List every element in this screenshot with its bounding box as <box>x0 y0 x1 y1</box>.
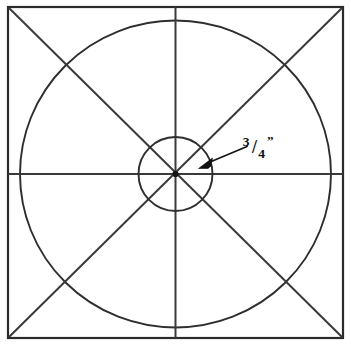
diagram-root: 3 / 4 ” <box>0 0 351 346</box>
technical-drawing-canvas: 3 / 4 ” <box>0 0 351 346</box>
fraction-numerator: 3 <box>243 134 250 149</box>
fraction-slash: / <box>251 137 258 157</box>
fraction-denominator: 4 <box>258 146 265 161</box>
inch-double-prime-mark: ” <box>267 133 274 148</box>
center-point-dot <box>172 171 178 177</box>
